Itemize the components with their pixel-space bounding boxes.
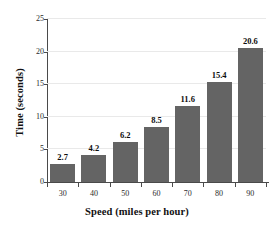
bar bbox=[207, 82, 232, 182]
x-axis-tick-label: 60 bbox=[141, 189, 172, 198]
bar-group: 8.5 bbox=[141, 19, 172, 182]
x-axis-tick-mark bbox=[235, 183, 236, 187]
bar bbox=[175, 106, 200, 182]
bar-value-label: 8.5 bbox=[141, 115, 172, 125]
y-axis-tick-label: 0 bbox=[22, 178, 44, 186]
bar-group: 11.6 bbox=[172, 19, 203, 182]
bar bbox=[50, 164, 75, 182]
x-axis-tick-label: 30 bbox=[47, 189, 78, 198]
x-axis-tick-mark bbox=[110, 183, 111, 187]
bar-group: 6.2 bbox=[110, 19, 141, 182]
x-axis-tick-marks bbox=[47, 183, 266, 188]
y-axis-tick-label: 25 bbox=[22, 15, 44, 23]
bar-value-label: 15.4 bbox=[203, 70, 234, 80]
bar bbox=[113, 142, 138, 182]
bar-group: 2.7 bbox=[47, 19, 78, 182]
y-axis-tick-label: 10 bbox=[22, 113, 44, 121]
y-axis-tick-labels: 0510152025 bbox=[20, 0, 44, 233]
x-axis-tick-mark bbox=[47, 183, 48, 187]
y-axis-tick-label: 5 bbox=[22, 145, 44, 153]
bar bbox=[144, 127, 169, 182]
x-axis-tick-label: 70 bbox=[172, 189, 203, 198]
x-axis-tick-label: 80 bbox=[203, 189, 234, 198]
x-axis-tick-mark bbox=[78, 183, 79, 187]
bar-chart-figure: Time (seconds) 0510152025 2.74.26.28.511… bbox=[0, 0, 274, 233]
y-axis-tick-label: 20 bbox=[22, 48, 44, 56]
bar bbox=[81, 155, 106, 182]
bar-group: 20.6 bbox=[235, 19, 266, 182]
bar-value-label: 6.2 bbox=[110, 130, 141, 140]
x-axis-tick-label: 50 bbox=[110, 189, 141, 198]
x-axis-tick-mark bbox=[266, 183, 267, 187]
x-axis-tick-mark bbox=[172, 183, 173, 187]
bar-value-label: 4.2 bbox=[78, 143, 109, 153]
y-axis-tick-label: 15 bbox=[22, 80, 44, 88]
x-axis-tick-labels: 30405060708090 bbox=[47, 189, 266, 203]
bar-value-label: 2.7 bbox=[47, 152, 78, 162]
x-axis-tick-mark bbox=[203, 183, 204, 187]
plot-area: 2.74.26.28.511.615.420.6 bbox=[47, 19, 266, 182]
bar bbox=[238, 48, 263, 182]
bars-layer: 2.74.26.28.511.615.420.6 bbox=[47, 19, 266, 182]
bar-value-label: 20.6 bbox=[235, 36, 266, 46]
x-axis-tick-mark bbox=[141, 183, 142, 187]
x-axis-tick-label: 40 bbox=[78, 189, 109, 198]
x-axis-tick-label: 90 bbox=[235, 189, 266, 198]
bar-group: 4.2 bbox=[78, 19, 109, 182]
bar-value-label: 11.6 bbox=[172, 94, 203, 104]
bar-group: 15.4 bbox=[203, 19, 234, 182]
x-axis-title: Speed (miles per hour) bbox=[0, 206, 274, 217]
